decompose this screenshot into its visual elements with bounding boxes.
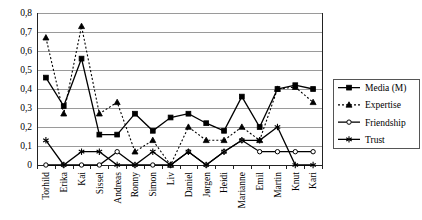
data-point-marker-square (311, 87, 316, 92)
data-point-marker-square (79, 56, 84, 61)
x-axis-tick-label: Ronny (130, 172, 140, 198)
data-point-marker-square (44, 75, 49, 80)
data-point-marker-circle (311, 150, 315, 154)
data-point-marker-triangle (150, 137, 156, 142)
x-axis-tick-label: Torhild (41, 172, 51, 200)
x-axis-tick-label: Simon (148, 172, 158, 197)
data-point-marker-circle (79, 163, 83, 167)
x-axis-tick-label: Emil (255, 172, 265, 191)
data-point-marker-triangle (239, 124, 245, 129)
x-axis-tick-label: Daniel (184, 172, 194, 198)
data-point-marker-circle (44, 163, 48, 167)
data-point-marker-triangle (61, 111, 67, 116)
data-point-marker-square (204, 121, 209, 126)
data-point-marker-square (186, 111, 191, 116)
data-point-marker-circle (293, 150, 297, 154)
legend-label: Trust (365, 135, 385, 145)
y-axis-tick-label: 0,1 (20, 141, 32, 151)
legend-label: Friendship (365, 118, 406, 128)
series-line (46, 26, 313, 165)
data-point-marker-circle (257, 150, 261, 154)
data-point-marker-triangle (79, 23, 85, 28)
x-axis-tick-label: Knut (291, 172, 301, 191)
series-media-m (44, 56, 316, 137)
data-point-marker-circle (115, 150, 119, 154)
data-point-marker-circle (275, 150, 279, 154)
data-point-marker-square (347, 85, 352, 90)
chart-canvas: 00,10,20,30,40,50,60,70,8TorhildErikaKai… (0, 0, 422, 220)
data-point-marker-circle (97, 163, 101, 167)
x-axis-tick-label: Liv (166, 172, 176, 185)
data-point-marker-square (115, 132, 120, 137)
data-point-marker-circle (347, 120, 351, 124)
data-point-marker-square (150, 128, 155, 133)
data-point-marker-triangle (96, 111, 102, 116)
data-point-marker-square (257, 125, 262, 130)
y-axis-tick-label: 0,2 (20, 122, 32, 132)
y-axis-tick-label: 0,4 (20, 84, 32, 94)
y-axis-labels: 00,10,20,30,40,50,60,70,8 (20, 8, 32, 170)
data-point-marker-triangle (132, 149, 138, 154)
data-point-marker-square (97, 132, 102, 137)
data-point-marker-triangle (43, 35, 49, 40)
data-point-marker-triangle (114, 99, 120, 104)
x-axis-tick-label: Erika (59, 171, 69, 192)
data-point-marker-square (222, 128, 227, 133)
series-friendship (44, 138, 316, 167)
data-point-marker-triangle (185, 124, 191, 129)
y-axis-tick-label: 0,3 (20, 103, 32, 113)
legend-label: Media (M) (365, 83, 406, 94)
x-axis-labels: TorhildErikaKaiSisselAndreasRonnySimonLi… (41, 171, 318, 208)
line-chart: 00,10,20,30,40,50,60,70,8TorhildErikaKai… (0, 0, 422, 220)
data-point-marker-circle (151, 163, 155, 167)
y-axis-tick-label: 0,7 (20, 27, 32, 37)
y-axis-tick-label: 0,6 (20, 46, 32, 56)
y-axis-tick-label: 0,5 (20, 65, 32, 75)
data-point-marker-square (168, 115, 173, 120)
x-axis-tick-label: Jørgen (202, 172, 212, 197)
data-point-marker-square (133, 111, 138, 116)
y-axis-tick-label: 0,8 (20, 8, 32, 18)
x-axis-tick-label: Kai (77, 172, 87, 186)
legend: Media (M)ExpertiseFriendshipTrust (334, 80, 420, 149)
x-axis-tick-label: Sissel (95, 172, 105, 195)
x-axis-tick-label: Kari (308, 172, 318, 189)
x-axis-tick-label: Heidi (219, 172, 229, 193)
data-point-marker-square (239, 94, 244, 99)
legend-label: Expertise (365, 100, 401, 110)
x-axis-tick-label: Martin (273, 172, 283, 198)
x-axis-tick-label: Marianne (237, 172, 247, 208)
x-axis-tick-label: Andreas (113, 172, 123, 204)
series-line (46, 140, 313, 165)
y-axis-tick-label: 0 (27, 160, 32, 170)
